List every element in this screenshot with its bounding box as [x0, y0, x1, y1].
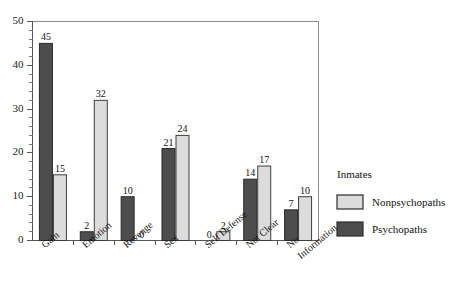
- bar-value-label-psychopaths: 45: [41, 31, 51, 42]
- bar-value-label-nonpsychopaths: 15: [55, 163, 65, 174]
- y-axis-tick-labels: 01020304050: [13, 14, 25, 245]
- bar-value-label-psychopaths: 7: [289, 198, 294, 209]
- y-axis-tick-label: 0: [18, 233, 24, 245]
- y-axis-ticks: [27, 22, 33, 241]
- y-axis-tick-label: 50: [13, 14, 25, 26]
- bar-psychopaths: [162, 149, 175, 241]
- y-axis-tick-label: 10: [13, 189, 25, 201]
- bar-value-label-nonpsychopaths: 24: [178, 123, 188, 134]
- bar-value-label-nonpsychopaths: 17: [259, 154, 269, 165]
- legend: Inmates Nonpsychopaths Psychopaths: [337, 168, 445, 236]
- bar-value-label-psychopaths: 10: [123, 185, 133, 196]
- bar-value-label-nonpsychopaths: 32: [96, 88, 106, 99]
- legend-title: Inmates: [337, 168, 372, 180]
- bar-group-container: [39, 43, 311, 240]
- legend-swatch-nonpsychopaths: [337, 195, 363, 209]
- legend-swatch-psychopaths: [337, 222, 363, 236]
- bar-chart: 01020304050 45152321002124021417710 Gain…: [0, 0, 452, 302]
- y-axis-tick-label: 30: [13, 102, 25, 114]
- bar-value-label-psychopaths: 14: [245, 167, 255, 178]
- bar-value-label-psychopaths: 2: [84, 220, 89, 231]
- bar-nonpsychopaths: [53, 175, 66, 241]
- legend-label-psychopaths: Psychopaths: [372, 223, 427, 235]
- legend-label-nonpsychopaths: Nonpsychopaths: [372, 196, 445, 208]
- y-axis-tick-label: 20: [13, 145, 25, 157]
- y-axis-tick-label: 40: [13, 58, 25, 70]
- bar-nonpsychopaths: [176, 135, 189, 240]
- bar-nonpsychopaths: [299, 197, 312, 241]
- chart-canvas: 01020304050 45152321002124021417710 Gain…: [0, 0, 452, 302]
- bar-value-label-nonpsychopaths: 10: [300, 185, 310, 196]
- bar-psychopaths: [39, 43, 52, 240]
- bar-value-label-psychopaths: 21: [164, 137, 174, 148]
